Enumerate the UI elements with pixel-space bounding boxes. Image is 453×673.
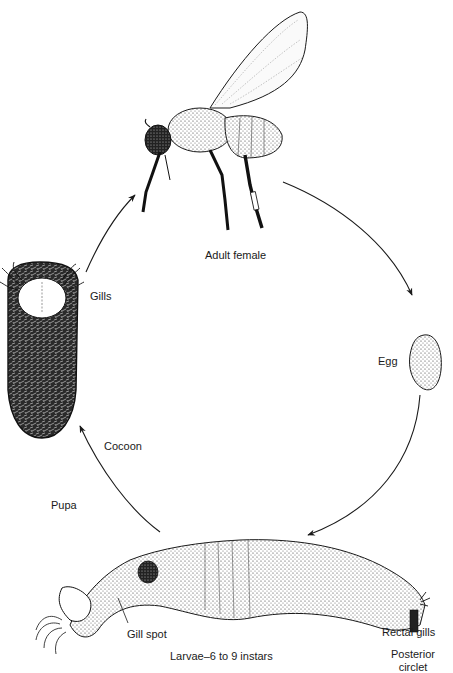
label-cocoon: Cocoon bbox=[104, 440, 142, 453]
life-cycle-diagram: Adult female Egg Gills Cocoon Pupa Gill … bbox=[0, 0, 453, 673]
label-adult-female: Adult female bbox=[205, 249, 266, 262]
label-egg: Egg bbox=[378, 355, 398, 368]
diagram-artwork bbox=[0, 0, 453, 673]
label-rectal-gills: Rectal gills bbox=[382, 626, 435, 639]
label-posterior-circlet: Posterior circlet bbox=[388, 648, 438, 673]
arrow-adult-to-egg bbox=[283, 182, 412, 295]
label-larvae: Larvae–6 to 9 instars bbox=[170, 650, 273, 663]
label-posterior-circlet-line1: Posterior bbox=[388, 648, 438, 661]
arrow-egg-to-larva bbox=[308, 395, 420, 535]
pupa-cocoon-illustration bbox=[0, 262, 84, 438]
label-gill-spot: Gill spot bbox=[127, 628, 167, 641]
egg-illustration bbox=[410, 335, 442, 390]
adult-female-illustration bbox=[143, 12, 307, 230]
arrow-pupa-to-adult bbox=[86, 195, 135, 272]
label-posterior-circlet-line2: circlet bbox=[388, 661, 438, 673]
label-gills: Gills bbox=[90, 290, 111, 303]
larva-illustration bbox=[36, 540, 430, 654]
label-pupa: Pupa bbox=[51, 499, 77, 512]
